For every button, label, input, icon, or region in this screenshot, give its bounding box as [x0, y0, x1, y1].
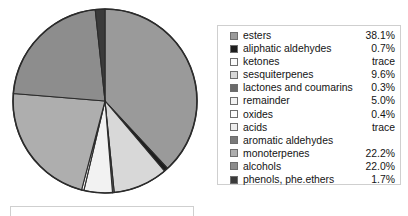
- legend-item: lactones and coumarins0.3%: [230, 81, 395, 94]
- legend-value: 0.4%: [368, 108, 395, 121]
- pie-chart-svg: [8, 2, 204, 202]
- legend-value: trace: [369, 55, 395, 68]
- legend-label: oxides: [243, 108, 368, 121]
- legend-swatch-icon: [230, 32, 238, 40]
- legend-item: alcohols22.0%: [230, 160, 395, 173]
- legend-value: 9.6%: [368, 68, 395, 81]
- legend-value: 22.0%: [363, 160, 395, 173]
- legend-label: ketones: [243, 55, 369, 68]
- legend-swatch-icon: [230, 45, 238, 53]
- legend-label: lactones and coumarins: [243, 81, 368, 94]
- legend-swatch-icon: [230, 123, 238, 131]
- legend-value: 0.7%: [368, 42, 395, 55]
- legend-row-list: esters38.1%aliphatic aldehydes0.7%ketone…: [230, 29, 395, 186]
- legend-item: monoterpenes22.2%: [230, 147, 395, 160]
- legend-label: phenols, phe.ethers: [243, 173, 368, 186]
- legend-value: trace: [369, 121, 395, 134]
- legend-label: aromatic aldehydes: [243, 134, 392, 147]
- legend-item: remainder5.0%: [230, 94, 395, 107]
- legend-swatch-icon: [230, 58, 238, 66]
- legend-item: aliphatic aldehydes0.7%: [230, 42, 395, 55]
- legend-value: 22.2%: [363, 147, 395, 160]
- legend-label: remainder: [243, 94, 368, 107]
- legend-swatch-icon: [230, 84, 238, 92]
- legend-label: esters: [243, 29, 363, 42]
- legend-value: 0.3%: [368, 81, 395, 94]
- legend-swatch-icon: [230, 97, 238, 105]
- legend-label: alcohols: [243, 160, 363, 173]
- legend-swatch-icon: [230, 136, 238, 144]
- legend-label: monoterpenes: [243, 147, 363, 160]
- legend-value: 38.1%: [363, 29, 395, 42]
- legend-label: aliphatic aldehydes: [243, 42, 368, 55]
- legend-label: sesquiterpenes: [243, 68, 368, 81]
- legend-swatch-icon: [230, 71, 238, 79]
- pie-chart-figure: esters38.1%aliphatic aldehydes0.7%ketone…: [0, 0, 408, 216]
- caption-box: [10, 206, 194, 216]
- pie-chart-panel: [8, 2, 204, 202]
- legend-item: sesquiterpenes9.6%: [230, 68, 395, 81]
- legend-item: aromatic aldehydes: [230, 134, 395, 147]
- pie-slice: [13, 10, 105, 101]
- legend-item: oxides0.4%: [230, 108, 395, 121]
- legend-item: phenols, phe.ethers1.7%: [230, 173, 395, 186]
- legend-item: acidstrace: [230, 121, 395, 134]
- legend-label: acids: [243, 121, 369, 134]
- legend-swatch-icon: [230, 149, 238, 157]
- legend-swatch-icon: [230, 162, 238, 170]
- legend-swatch-icon: [230, 110, 238, 118]
- legend-value: 1.7%: [368, 173, 395, 186]
- legend-item: esters38.1%: [230, 29, 395, 42]
- pie-slice-group: [13, 9, 197, 193]
- legend-box: esters38.1%aliphatic aldehydes0.7%ketone…: [217, 25, 401, 185]
- legend-item: ketonestrace: [230, 55, 395, 68]
- legend-value: 5.0%: [368, 94, 395, 107]
- legend-swatch-icon: [230, 176, 238, 184]
